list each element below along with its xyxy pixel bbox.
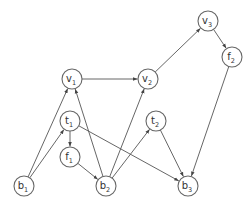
edge-b2-to-v1 <box>75 89 103 177</box>
edge-v2-to-v3 <box>155 28 200 72</box>
edge-b2-to-t2 <box>112 129 150 178</box>
edge-b1-to-t1 <box>30 130 64 178</box>
edge-t1-to-b3 <box>79 126 179 181</box>
node-b3: b3 <box>178 176 198 196</box>
node-t2: t2 <box>146 111 166 131</box>
node-b1: b1 <box>14 176 34 196</box>
directed-graph: v1v2v3f2t1f1t2b1b2b3 <box>0 0 250 208</box>
node-v1: v1 <box>62 69 82 89</box>
edge-t2-to-b3 <box>160 130 183 177</box>
node-b2: b2 <box>96 176 116 196</box>
node-f2: f2 <box>222 47 242 67</box>
node-v3: v3 <box>198 11 218 31</box>
node-f1: f1 <box>60 147 80 167</box>
node-v2: v2 <box>138 69 158 89</box>
edge-v3-to-f2 <box>214 29 227 48</box>
edges-layer <box>28 28 229 181</box>
edge-f1-to-b2 <box>78 163 98 179</box>
nodes-layer: v1v2v3f2t1f1t2b1b2b3 <box>14 11 242 196</box>
edge-b2-to-v2 <box>110 89 145 177</box>
node-t1: t1 <box>60 111 80 131</box>
edge-f2-to-b3 <box>191 67 228 177</box>
